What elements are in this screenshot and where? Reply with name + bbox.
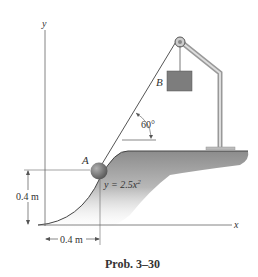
figure-caption: Prob. 3–30 (105, 257, 160, 271)
angle-arrow-bottom (149, 135, 153, 139)
width-dim-arrow-right (95, 237, 100, 241)
height-dim-label: 0.4 m (16, 191, 39, 202)
width-dim-label: 0.4 m (60, 234, 83, 245)
height-dim-arrow-top (26, 170, 30, 175)
block-label: B (156, 76, 163, 88)
y-axis-label: y (41, 18, 47, 29)
frame-base-plate (206, 147, 235, 150)
block-b (167, 71, 192, 91)
width-dim-arrow-left (45, 237, 50, 241)
height-dim-arrow-bottom (26, 220, 30, 225)
ground-surface (38, 151, 248, 232)
x-axis-label: x (233, 219, 239, 230)
curve-equation: y = 2.5x2 (103, 178, 141, 190)
rope (102, 40, 177, 164)
ball-a (91, 163, 108, 180)
angle-arrow-top (136, 113, 140, 117)
diagram-canvas: y x 0.4 m 0.4 m 60° B A y = 2.5x2 Prob. … (0, 0, 258, 277)
ball-label: A (81, 154, 89, 166)
angle-label: 60° (141, 119, 155, 130)
